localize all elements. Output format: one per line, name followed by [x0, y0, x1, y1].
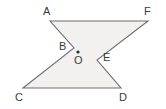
vertex-label-d: D [119, 92, 127, 103]
vertex-label-f: F [144, 6, 151, 17]
vertex-label-e: E [103, 52, 110, 63]
hexagon-shape [23, 21, 148, 88]
vertex-label-b: B [59, 41, 66, 52]
geometry-figure: A F E D C B O [0, 0, 166, 109]
center-point-label-o: O [74, 55, 83, 66]
vertex-label-c: C [15, 92, 23, 103]
vertex-label-a: A [43, 6, 50, 17]
figure-canvas [0, 0, 166, 109]
